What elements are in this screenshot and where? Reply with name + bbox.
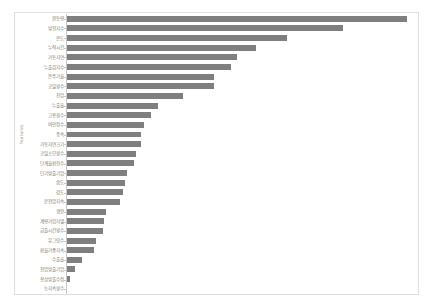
bar-row: 용상방출수정 xyxy=(20,274,416,284)
bar-row: 비인정수 xyxy=(20,120,416,130)
y-axis-tick xyxy=(64,231,66,232)
bar-category-label: 전압방출기압 xyxy=(20,267,66,272)
bar xyxy=(66,141,141,147)
bar xyxy=(66,54,237,60)
bar-track xyxy=(66,197,416,207)
bar-category-label: 단기방출기압 xyxy=(20,171,66,176)
y-axis-tick xyxy=(64,260,66,261)
y-axis-tick xyxy=(64,28,66,29)
bar xyxy=(66,45,256,51)
bar-row: 수출율 xyxy=(20,255,416,265)
bar-category-label: 용상방출수정 xyxy=(20,277,66,282)
y-axis-tick xyxy=(64,77,66,78)
y-axis-tick xyxy=(64,164,66,165)
y-axis-spine xyxy=(66,14,67,294)
bar-category-label: 분전압지속 xyxy=(20,199,66,204)
bar xyxy=(66,160,134,166)
bar xyxy=(66,209,106,215)
y-axis-tick xyxy=(64,173,66,174)
y-axis-tick xyxy=(64,251,66,252)
y-axis-tick xyxy=(64,48,66,49)
bar-track xyxy=(66,284,416,294)
bar-category-label: 온도 xyxy=(20,36,66,41)
bar-row: 가동지연 xyxy=(20,53,416,63)
bar-row: 활동량 xyxy=(20,14,416,24)
bar xyxy=(66,238,96,244)
bar-category-label: 습도 xyxy=(20,180,66,185)
bar-track xyxy=(66,110,416,120)
bar-category-label: 가동지연크기 xyxy=(20,142,66,147)
bar-row: 풍속 xyxy=(20,130,416,140)
y-axis-tick xyxy=(64,115,66,116)
bar-track xyxy=(66,53,416,63)
bar-track xyxy=(66,178,416,188)
bar-row: 생활 xyxy=(20,207,416,217)
bar-row: 누출감지수 xyxy=(20,62,416,72)
bar-track xyxy=(66,207,416,217)
bar-track xyxy=(66,120,416,130)
bar xyxy=(66,151,136,157)
bar-category-label: 가동지연 xyxy=(20,55,66,60)
bar-track xyxy=(66,188,416,198)
y-axis-tick xyxy=(64,241,66,242)
bar-track xyxy=(66,130,416,140)
y-axis-tick xyxy=(64,144,66,145)
y-axis-tick xyxy=(64,183,66,184)
bar xyxy=(66,170,127,176)
bar-category-label: 온주기율 xyxy=(20,74,66,79)
bar xyxy=(66,199,120,205)
bar-track xyxy=(66,101,416,111)
bar xyxy=(66,122,144,128)
bar-track xyxy=(66,33,416,43)
bar-row: 계량가압지열 xyxy=(20,216,416,226)
bar-track xyxy=(66,236,416,246)
bar-row: 강도 xyxy=(20,188,416,198)
bar-category-label: 강도 xyxy=(20,190,66,195)
bar-row: 방전지수 xyxy=(20,24,416,34)
bar-track xyxy=(66,265,416,275)
bar-category-label: 고용횟수 xyxy=(20,113,66,118)
bar-row: 코일횟수 xyxy=(20,81,416,91)
bar-track xyxy=(66,245,416,255)
bar-row: 고용횟수 xyxy=(20,110,416,120)
chart-title xyxy=(0,0,427,12)
bar xyxy=(66,64,231,70)
y-axis-tick xyxy=(64,96,66,97)
y-axis-tick xyxy=(64,106,66,107)
y-axis-tick xyxy=(64,202,66,203)
bar-category-label: 비인정수 xyxy=(20,122,66,127)
bar-row: 온주기율 xyxy=(20,72,416,82)
bar xyxy=(66,180,125,186)
bar xyxy=(66,93,183,99)
bar-track xyxy=(66,24,416,34)
bar-track xyxy=(66,226,416,236)
y-axis-tick xyxy=(64,212,66,213)
y-axis-tick xyxy=(64,86,66,87)
bar-row: 누출율 xyxy=(20,101,416,111)
plot-axes: 활동량방전지수온도누적시간가동지연누출감지수온주기율코일횟수전압누출율고용횟수비… xyxy=(20,14,416,294)
bar-category-label: 누적시간 xyxy=(20,45,66,50)
bar-track xyxy=(66,274,416,284)
bar-row: 온도 xyxy=(20,33,416,43)
bar-track xyxy=(66,159,416,169)
bar-track xyxy=(66,43,416,53)
bar-category-label: 누출율 xyxy=(20,103,66,108)
bar-category-label: 수출율 xyxy=(20,257,66,262)
y-axis-tick xyxy=(64,154,66,155)
y-axis-tick xyxy=(64,280,66,281)
y-axis-tick xyxy=(64,270,66,271)
y-axis-tick xyxy=(64,38,66,39)
bar-track xyxy=(66,14,416,24)
bar-category-label: 코일횟수 xyxy=(20,84,66,89)
bar-track xyxy=(66,81,416,91)
bar xyxy=(66,132,141,138)
bar-category-label: 유그림수 xyxy=(20,238,66,243)
bar-row: 가동지연크기 xyxy=(20,139,416,149)
bar xyxy=(66,25,343,31)
y-axis-tick xyxy=(64,125,66,126)
y-axis-tick xyxy=(64,289,66,290)
bar-category-label: 방전지수 xyxy=(20,26,66,31)
bar-row: 전압 xyxy=(20,91,416,101)
bar-track xyxy=(66,62,416,72)
bar-row: 누적시간 xyxy=(20,43,416,53)
